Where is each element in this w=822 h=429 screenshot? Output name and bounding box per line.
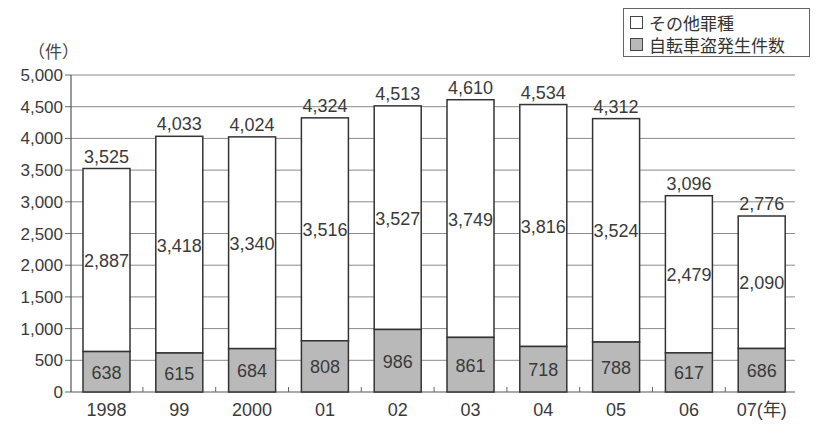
data-label-bicycle-theft: 986 [383,352,413,372]
y-tick-label: 4,000 [20,129,63,148]
data-label-total: 4,324 [302,96,347,116]
data-label-bicycle-theft: 686 [747,361,777,381]
stacked-bar-chart: 05001,0001,5002,0002,5003,0003,5004,0004… [0,0,822,429]
data-label-other-crimes: 3,527 [375,209,420,229]
y-tick-label: 2,500 [20,225,63,244]
data-label-total: 4,033 [157,114,202,134]
data-label-total: 4,024 [230,115,275,135]
y-tick-label: 3,000 [20,193,63,212]
data-label-total: 2,776 [739,194,784,214]
data-label-other-crimes: 3,340 [230,234,275,254]
x-tick-label: 04 [533,400,553,420]
data-label-other-crimes: 3,816 [521,217,566,237]
x-tick-label: 02 [388,400,408,420]
y-tick-label: 1,500 [20,288,63,307]
x-tick-label: 07(年) [737,400,787,420]
data-label-bicycle-theft: 617 [674,363,704,383]
data-label-bicycle-theft: 808 [310,357,340,377]
data-label-other-crimes: 2,887 [84,251,129,271]
data-label-bicycle-theft: 861 [455,356,485,376]
y-tick-label: 500 [35,351,63,370]
y-tick-label: 5,000 [20,66,63,85]
data-label-total: 3,525 [84,147,129,167]
data-label-other-crimes: 3,516 [302,220,347,240]
x-tick-label: 1998 [86,400,126,420]
data-label-bicycle-theft: 615 [164,364,194,384]
x-tick-label: 2000 [232,400,272,420]
data-label-other-crimes: 2,479 [666,265,711,285]
data-label-bicycle-theft: 788 [601,358,631,378]
data-label-total: 3,096 [666,174,711,194]
data-label-total: 4,513 [375,84,420,104]
y-tick-label: 0 [54,383,63,402]
data-label-other-crimes: 2,090 [739,273,784,293]
data-label-other-crimes: 3,749 [448,210,493,230]
data-label-bicycle-theft: 638 [91,363,121,383]
data-label-total: 4,312 [594,97,639,117]
x-tick-label: 05 [606,400,626,420]
x-tick-label: 06 [679,400,699,420]
y-tick-label: 4,500 [20,98,63,117]
data-label-bicycle-theft: 684 [237,361,267,381]
x-tick-label: 99 [169,400,189,420]
y-tick-label: 1,000 [20,320,63,339]
data-label-total: 4,610 [448,78,493,98]
y-tick-label: 3,500 [20,161,63,180]
data-label-other-crimes: 3,524 [594,221,639,241]
data-label-other-crimes: 3,418 [157,236,202,256]
data-label-total: 4,534 [521,83,566,103]
data-label-bicycle-theft: 718 [528,360,558,380]
x-tick-label: 01 [315,400,335,420]
x-tick-label: 03 [460,400,480,420]
y-tick-label: 2,000 [20,256,63,275]
